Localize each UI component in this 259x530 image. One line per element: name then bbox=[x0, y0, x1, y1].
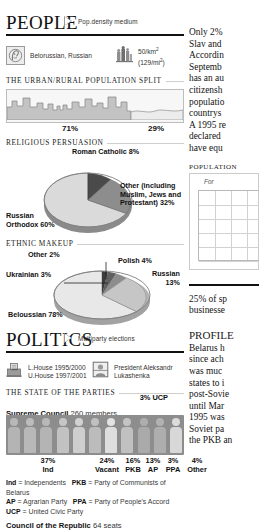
council-republic-name: Council of the Republic bbox=[6, 521, 91, 530]
religion-label-orthodox: Russian Orthodox 60% bbox=[6, 212, 55, 229]
urban-rural-chart bbox=[6, 89, 184, 123]
seat-figure bbox=[119, 415, 135, 455]
seat-figure bbox=[55, 415, 71, 455]
people-tag: Pop.density medium bbox=[78, 18, 138, 25]
parliament-percent-labels: 37% Ind 24% Vacant 16% PKB 13% AP 3% PPA… bbox=[6, 456, 184, 475]
seg-pct-4: 3% bbox=[168, 456, 179, 465]
legend-abbr-ind: Ind bbox=[6, 479, 16, 486]
ethnic-pie-chart: Other 2% Ukrainian 3% Polish 4% Russian … bbox=[6, 249, 184, 327]
seg-label-1: 24% Vacant bbox=[92, 456, 122, 474]
seat-figure bbox=[87, 415, 103, 455]
seg-pct-2: 16% bbox=[126, 456, 141, 465]
seat-figure bbox=[22, 415, 38, 455]
seg-label-2: 16% PKB bbox=[122, 456, 144, 474]
legend-text-ap: = Agrarian Party bbox=[18, 498, 68, 505]
right-col-divider-wrap bbox=[189, 280, 259, 292]
article-column-2: 25% of sp businesse bbox=[189, 294, 259, 317]
parties-heading-text: THE STATE OF THE PARTIES bbox=[6, 388, 119, 397]
right-column: Only 2% Slav and Accordin Septemb has an… bbox=[189, 0, 259, 486]
president-name-line1: President Aleksandr bbox=[114, 364, 173, 371]
ethnic-label-other: Other 2% bbox=[28, 251, 60, 260]
legend-abbr-ap: AP bbox=[6, 498, 16, 505]
population-chart-grid bbox=[198, 190, 259, 261]
seg-name-3: AP bbox=[144, 465, 162, 474]
population-chart-box: For bbox=[189, 173, 259, 270]
divider-2 bbox=[6, 351, 184, 353]
seat-figure bbox=[152, 415, 168, 455]
chevron-right-icon-2-inner bbox=[65, 334, 71, 342]
politics-section-header: POLITICS Multiparty elections bbox=[6, 329, 184, 355]
ethnic-label-ukrainian: Ukrainian 3% bbox=[6, 271, 51, 280]
language-value: Belorussian, Russian bbox=[30, 52, 92, 60]
population-chart-caption: For bbox=[204, 178, 214, 185]
seat-figure bbox=[38, 415, 54, 455]
city-buildings-icon bbox=[116, 46, 133, 67]
legend-abbr-pkb: PKB bbox=[72, 479, 87, 486]
president-portrait-icon bbox=[92, 361, 109, 382]
president-fact: President Aleksandr Lukashenka bbox=[92, 361, 173, 382]
ethnic-label-russian: Russian 13% bbox=[134, 270, 180, 287]
language-fact: Belorussian, Russian bbox=[6, 46, 92, 65]
density-metric: 50/km bbox=[138, 49, 156, 56]
legend-abbr-ppa: PPA bbox=[73, 498, 87, 505]
seg-label-0: 37% Ind bbox=[36, 456, 60, 474]
density-value: 50/km2 (129/mi2) bbox=[138, 46, 165, 66]
seg-name-4: PPA bbox=[162, 465, 184, 474]
houses-value: L.House 1995/2000 U.House 1997/2001 bbox=[28, 364, 87, 380]
density-metric-sup: 2 bbox=[156, 47, 159, 52]
council-republic-size: 64 seats bbox=[93, 521, 122, 530]
speech-head-icon bbox=[6, 46, 25, 65]
rural-pct: 29% bbox=[148, 124, 164, 133]
profile-heading: PROFILE bbox=[189, 325, 259, 343]
divider bbox=[6, 34, 184, 36]
politics-tag: Multiparty elections bbox=[78, 335, 135, 342]
ucp-name: UCP bbox=[152, 393, 168, 402]
article-column-1: Only 2% Slav and Accordin Septemb has an… bbox=[189, 27, 259, 155]
seat-figure bbox=[6, 415, 22, 455]
article-column-3: Belarus h since ach was muc states to i … bbox=[189, 343, 259, 447]
president-value: President Aleksandr Lukashenka bbox=[114, 364, 173, 380]
politics-key-facts: L.House 1995/2000 U.House 1997/2001 Pres… bbox=[6, 361, 184, 383]
ucp-top-label: 3% UCP bbox=[140, 393, 168, 402]
people-section-header: PEOPLE Pop.density medium bbox=[6, 12, 184, 38]
urban-rural-heading: THE URBAN/RURAL POPULATION SPLIT bbox=[6, 76, 184, 86]
houses-fact: L.House 1995/2000 U.House 1997/2001 bbox=[6, 361, 87, 382]
ucp-pct: 3% bbox=[140, 393, 151, 402]
supreme-council-row: Supreme Council 260 members 3% UCP bbox=[6, 402, 184, 413]
religion-pie-chart: Roman Catholic 8% Other (including Musli… bbox=[6, 148, 184, 243]
left-column: PEOPLE Pop.density medium Belorussian, R… bbox=[6, 0, 184, 486]
seat-figure bbox=[168, 415, 184, 455]
legend-abbr-ucp: UCP bbox=[6, 508, 21, 515]
party-legend: Ind = Independents PKB = Party of Commun… bbox=[6, 478, 184, 516]
seat-figure bbox=[103, 415, 119, 455]
chevron-right-icon-inner bbox=[65, 17, 71, 25]
parliament-seat-chart bbox=[6, 415, 184, 455]
seg-label-4: 3% PPA bbox=[162, 456, 184, 474]
ethnic-heading-text: ETHNIC MAKEUP bbox=[6, 239, 77, 248]
density-imperial: (129/mi bbox=[138, 59, 160, 66]
legend-text-ind: = Independents bbox=[18, 479, 66, 486]
council-republic-row: Council of the Republic 64 seats bbox=[6, 521, 184, 530]
density-imperial-close: ) bbox=[163, 59, 165, 66]
religion-label-other: Other (including Muslim, Jews and Protes… bbox=[120, 182, 184, 208]
seg-name-0: Ind bbox=[36, 465, 60, 474]
seg-label-3: 13% AP bbox=[144, 456, 162, 474]
ballot-box-icon bbox=[6, 361, 23, 382]
ethnic-label-beloussian: Beloussian 78% bbox=[8, 311, 63, 320]
seat-figure bbox=[71, 415, 87, 455]
seg-pct-0: 37% bbox=[41, 456, 56, 465]
seg-pct-1: 24% bbox=[100, 456, 115, 465]
seg-name-2: PKB bbox=[122, 465, 144, 474]
religion-heading-text: RELIGIOUS PERSUASION bbox=[6, 138, 107, 147]
density-fact: 50/km2 (129/mi2) bbox=[116, 46, 165, 67]
religion-label-catholic: Roman Catholic 8% bbox=[72, 148, 139, 157]
legend-text-ucp: = United Civic Party bbox=[22, 508, 83, 515]
urban-pct: 71% bbox=[62, 124, 78, 133]
seg-pct-3: 13% bbox=[146, 456, 161, 465]
religion-heading: RELIGIOUS PERSUASION bbox=[6, 138, 184, 148]
lower-house-term: L.House 1995/2000 bbox=[28, 364, 86, 371]
president-name-line2: Lukashenka bbox=[114, 372, 150, 379]
ethnic-heading: ETHNIC MAKEUP bbox=[6, 239, 184, 249]
profile-heading-text: PROFILE bbox=[189, 329, 234, 341]
